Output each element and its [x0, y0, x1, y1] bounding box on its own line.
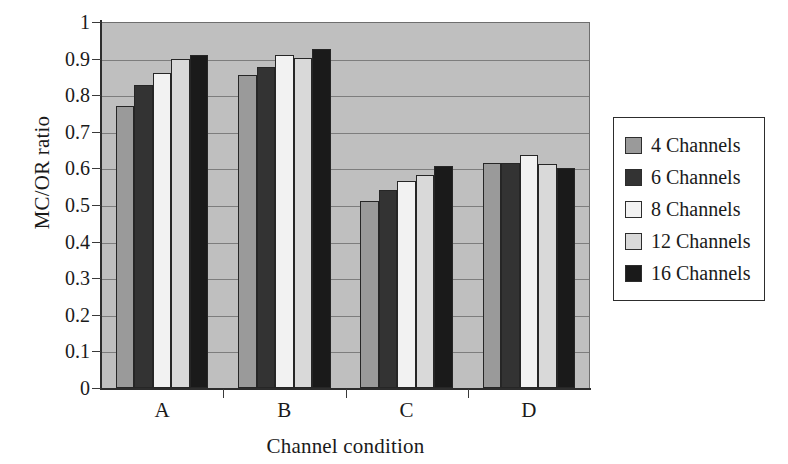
- y-axis-tick-mark: [92, 95, 101, 96]
- bar[interactable]: [275, 55, 294, 388]
- bar[interactable]: [416, 175, 435, 388]
- y-axis-tick-label: 0.2: [24, 305, 90, 325]
- bar[interactable]: [116, 106, 135, 388]
- bar-group: [346, 23, 468, 388]
- bar[interactable]: [294, 58, 313, 388]
- legend-swatch-icon: [625, 265, 642, 282]
- legend-item[interactable]: 8 Channels: [625, 193, 750, 225]
- y-axis-tick-label: 0: [24, 378, 90, 398]
- x-axis-tick-mark: [346, 389, 347, 398]
- bar[interactable]: [153, 73, 172, 388]
- y-axis-tick-label: 0.3: [24, 268, 90, 288]
- y-axis-tick-label: 0.4: [24, 232, 90, 252]
- plot-area: [101, 22, 590, 388]
- y-axis-tick-mark: [92, 168, 101, 169]
- x-axis-tick-mark: [223, 389, 224, 398]
- bar[interactable]: [483, 163, 502, 388]
- x-axis-tick-label: B: [254, 400, 314, 421]
- bar[interactable]: [501, 163, 520, 388]
- bar-group: [101, 23, 223, 388]
- y-axis-tick-label: 0.8: [24, 85, 90, 105]
- legend-item[interactable]: 16 Channels: [625, 257, 750, 289]
- x-axis-tick-label: D: [499, 400, 559, 421]
- y-axis-tick-label: 0.6: [24, 158, 90, 178]
- legend-item-label: 4 Channels: [651, 135, 740, 155]
- bar[interactable]: [312, 49, 331, 388]
- y-axis-tick-label: 0.9: [24, 49, 90, 69]
- bar[interactable]: [190, 55, 209, 388]
- y-axis-tick-mark: [92, 22, 101, 23]
- bar[interactable]: [379, 190, 398, 388]
- y-axis-tick-labels: 00.10.20.30.40.50.60.70.80.91: [24, 22, 90, 388]
- y-axis-tick-mark: [92, 315, 101, 316]
- bar[interactable]: [360, 201, 379, 388]
- bar[interactable]: [257, 67, 276, 388]
- legend-swatch-icon: [625, 137, 642, 154]
- bar[interactable]: [171, 59, 190, 388]
- y-axis-tick-mark: [92, 59, 101, 60]
- y-axis-tick-mark: [92, 278, 101, 279]
- x-axis-title: Channel condition: [101, 434, 590, 459]
- bar-group: [223, 23, 345, 388]
- y-axis-tick-label: 0.5: [24, 195, 90, 215]
- y-axis-tick-mark: [92, 351, 101, 352]
- x-axis-tick-label: C: [377, 400, 437, 421]
- legend-item-label: 12 Channels: [651, 231, 750, 251]
- bar[interactable]: [397, 181, 416, 388]
- bars-layer: [101, 23, 589, 388]
- bar[interactable]: [434, 166, 453, 388]
- y-axis-tick-label: 0.1: [24, 341, 90, 361]
- bar-chart-figure: MC/OR ratio 00.10.20.30.40.50.60.70.80.9…: [0, 0, 788, 464]
- bar[interactable]: [134, 85, 153, 388]
- bar[interactable]: [557, 168, 576, 388]
- legend-item[interactable]: 12 Channels: [625, 225, 750, 257]
- bar[interactable]: [538, 164, 557, 388]
- y-axis-tick-mark: [92, 205, 101, 206]
- bar[interactable]: [520, 155, 539, 389]
- x-axis-tick-mark: [468, 389, 469, 398]
- legend-swatch-icon: [625, 233, 642, 250]
- y-axis-tick-label: 1: [24, 12, 90, 32]
- legend-item[interactable]: 4 Channels: [625, 129, 750, 161]
- chart-legend: 4 Channels6 Channels8 Channels12 Channel…: [613, 117, 765, 301]
- y-axis-tick-mark: [92, 132, 101, 133]
- y-axis-tick-label: 0.7: [24, 122, 90, 142]
- legend-item[interactable]: 6 Channels: [625, 161, 750, 193]
- bar[interactable]: [238, 75, 257, 388]
- bar-group: [468, 23, 590, 388]
- legend-item-label: 8 Channels: [651, 199, 740, 219]
- legend-swatch-icon: [625, 169, 642, 186]
- legend-item-label: 16 Channels: [651, 263, 750, 283]
- legend-item-label: 6 Channels: [651, 167, 740, 187]
- y-axis-tick-mark: [92, 388, 101, 389]
- x-axis-tick-label: A: [132, 400, 192, 421]
- y-axis-tick-mark: [92, 242, 101, 243]
- legend-swatch-icon: [625, 201, 642, 218]
